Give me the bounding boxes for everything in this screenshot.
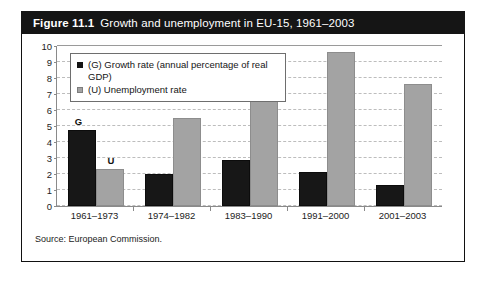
chart-legend: (G) Growth rate (annual percentage of re… (70, 53, 286, 102)
legend-item-growth: (G) Growth rate (annual percentage of re… (77, 59, 278, 82)
y-axis-tick-label: 5 (47, 121, 52, 132)
y-axis-tick-label: 2 (47, 169, 52, 180)
figure-number: Figure 11.1 (33, 17, 94, 29)
bar-growth (68, 130, 96, 206)
legend-label-growth: (G) Growth rate (annual percentage of re… (88, 59, 278, 82)
y-axis-tick-label: 10 (41, 41, 52, 52)
x-axis-tick-label: 1991–2000 (287, 210, 364, 221)
bar-growth (145, 174, 173, 206)
y-axis-tick-label: 7 (47, 89, 52, 100)
bar-unemployment (404, 84, 432, 206)
x-axis-tick-mark (287, 207, 288, 211)
x-axis-tick-mark (364, 207, 365, 211)
y-axis-tick-label: 4 (47, 137, 52, 148)
bar-unemployment (96, 169, 124, 206)
bar-unemployment (173, 118, 201, 206)
source-note: Source: European Commission. (35, 234, 162, 244)
bar-group (288, 46, 365, 206)
figure-title: Growth and unemployment in EU-15, 1961–2… (100, 17, 354, 29)
bar-growth (222, 160, 250, 206)
x-axis-tick-mark (210, 207, 211, 211)
x-axis-labels: 1961–19731974–19821983–19901991–20002001… (56, 210, 441, 221)
figure-title-bar: Figure 11.1 Growth and unemployment in E… (21, 11, 465, 34)
y-axis-tick-label: 0 (47, 201, 52, 212)
x-axis-tick-label: 2001–2003 (364, 210, 441, 221)
bar-growth (376, 185, 404, 206)
figure-body: 109876543210 GU 1961–19731974–19821983–1… (21, 34, 465, 262)
growth-marker-label: G (75, 116, 82, 127)
y-axis-tick-mark (54, 206, 57, 207)
legend-item-unemployment: (U) Unemployment rate (77, 84, 278, 96)
bar-growth (299, 172, 327, 206)
y-axis-tick-label: 1 (47, 185, 52, 196)
unemployment-marker-label: U (107, 155, 114, 166)
x-axis-tick-label: 1983–1990 (210, 210, 287, 221)
x-axis-tick-mark (133, 207, 134, 211)
y-axis-tick-label: 8 (47, 73, 52, 84)
x-axis-tick-label: 1974–1982 (133, 210, 210, 221)
legend-swatch-growth-icon (77, 62, 83, 68)
bar-group (365, 46, 442, 206)
x-axis-tick-label: 1961–1973 (56, 210, 133, 221)
figure-container: Figure 11.1 Growth and unemployment in E… (21, 11, 465, 262)
bar-unemployment (327, 52, 355, 206)
y-axis-tick-label: 9 (47, 57, 52, 68)
y-axis-tick-label: 6 (47, 105, 52, 116)
y-axis-tick-label: 3 (47, 153, 52, 164)
legend-swatch-unemployment-icon (77, 87, 83, 93)
legend-label-unemployment: (U) Unemployment rate (88, 84, 187, 96)
